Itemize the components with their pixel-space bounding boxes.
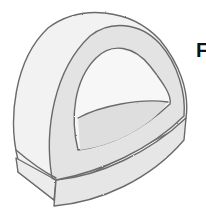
cropped-label-letter: F — [196, 40, 206, 60]
dome-sketch-illustration — [0, 0, 206, 223]
